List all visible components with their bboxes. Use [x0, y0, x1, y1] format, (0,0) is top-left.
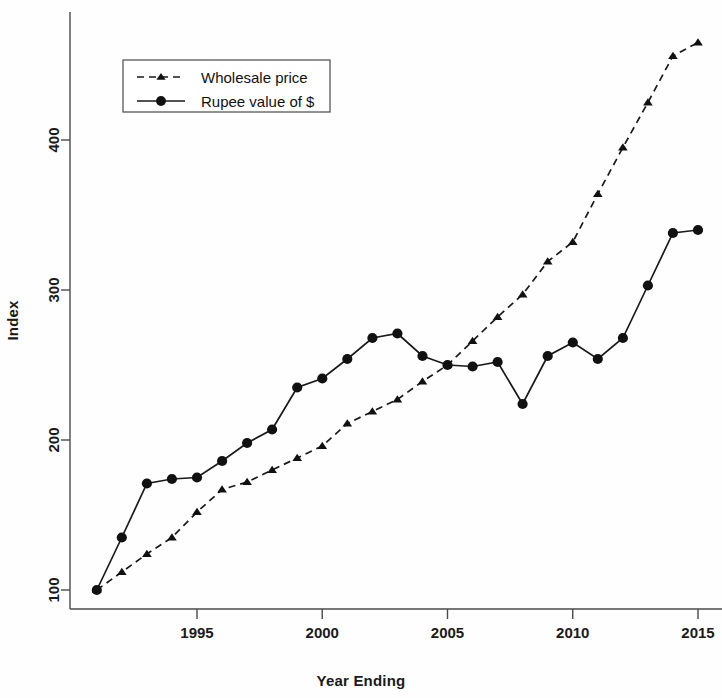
y-tick-label: 400 [45, 127, 62, 152]
data-point-marker [368, 407, 378, 414]
data-point-marker [668, 52, 678, 59]
data-point-marker [92, 585, 102, 595]
y-tick-label: 100 [45, 577, 62, 602]
data-point-marker [593, 354, 603, 364]
data-point-marker [518, 399, 528, 409]
data-point-marker [242, 438, 252, 448]
data-point-marker [643, 280, 653, 290]
series-line-1 [97, 43, 698, 591]
data-point-marker [618, 143, 628, 150]
data-point-marker [543, 351, 553, 361]
series-line-2 [97, 230, 698, 590]
chart-container: 100200300400 19952000200520102015 Wholes… [0, 0, 722, 698]
legend-label-2: Rupee value of $ [201, 93, 315, 110]
data-point-marker [593, 190, 603, 197]
y-axis-ticks: 100200300400 [45, 127, 71, 602]
data-point-marker [693, 225, 703, 235]
legend-key-marker-2 [156, 96, 166, 106]
x-tick-label: 2005 [431, 624, 464, 641]
data-point-marker [442, 360, 452, 370]
data-point-marker [417, 351, 427, 361]
data-point-marker [267, 466, 277, 473]
legend-label-1: Wholesale price [201, 69, 308, 86]
data-point-marker [468, 361, 478, 371]
x-tick-label: 2015 [681, 624, 714, 641]
data-point-marker [418, 377, 428, 384]
data-point-marker [342, 419, 352, 426]
data-point-marker [142, 478, 152, 488]
data-point-marker [267, 424, 277, 434]
data-point-marker [217, 485, 227, 492]
data-point-marker [317, 373, 327, 383]
y-tick-label: 200 [45, 427, 62, 452]
data-point-marker [217, 456, 227, 466]
data-point-marker [643, 98, 653, 105]
x-tick-label: 1995 [180, 624, 213, 641]
data-point-marker [618, 333, 628, 343]
data-point-marker [392, 328, 402, 338]
legend: Wholesale priceRupee value of $ [123, 60, 330, 112]
x-axis-ticks: 19952000200520102015 [180, 609, 714, 641]
data-point-marker [317, 442, 327, 449]
data-point-marker [117, 568, 127, 575]
data-point-marker [242, 478, 252, 485]
y-tick-label: 300 [45, 277, 62, 302]
x-tick-label: 2000 [306, 624, 339, 641]
x-tick-label: 2010 [556, 624, 589, 641]
data-point-marker [568, 337, 578, 347]
data-point-marker [367, 333, 377, 343]
data-point-marker [568, 238, 578, 245]
line-chart: 100200300400 19952000200520102015 Wholes… [0, 0, 722, 698]
data-point-marker [668, 228, 678, 238]
data-point-marker [192, 472, 202, 482]
y-axis-title: Index [4, 291, 21, 351]
data-point-marker [292, 382, 302, 392]
x-axis-title: Year Ending [0, 672, 722, 689]
data-point-marker [117, 532, 127, 542]
data-point-marker [493, 357, 503, 367]
data-point-marker [693, 38, 703, 45]
data-point-marker [342, 354, 352, 364]
data-series [92, 38, 703, 595]
data-point-marker [167, 474, 177, 484]
